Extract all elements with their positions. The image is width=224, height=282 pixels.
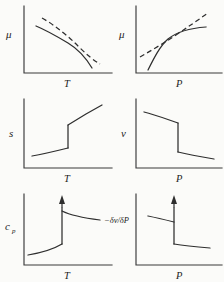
panel-cp-vs-T: c p T −δv/δP xyxy=(5,194,129,281)
xlabel-T-2: T xyxy=(64,173,71,184)
xlabel-P-1: P xyxy=(175,78,183,89)
panel-v-vs-P: v P xyxy=(121,99,222,184)
curve-dvdp-low-branch xyxy=(148,216,174,222)
axes-mu-vs-P xyxy=(136,6,222,73)
ylabel-s: s xyxy=(9,127,13,139)
ylabel-mu-1: μ xyxy=(5,28,12,40)
xlabel-P-3: P xyxy=(175,270,183,281)
thermodynamic-phase-transition-figure: μ T μ P s T v P c p T −δv/δP xyxy=(0,0,224,282)
ylabel-c-subscript-p: p xyxy=(11,227,16,235)
axes-dvdp-vs-P xyxy=(136,194,222,265)
cp-divergence-arrow-head xyxy=(59,195,65,204)
xlabel-P-2: P xyxy=(175,173,183,184)
annotation-dvdp: −δv/δP xyxy=(104,215,129,225)
curve-cp-high-branch xyxy=(62,211,100,220)
ylabel-mu-2: μ xyxy=(118,28,125,40)
curve-s-high-branch xyxy=(68,105,102,125)
curve-s-low-branch xyxy=(32,148,68,156)
xlabel-T-3: T xyxy=(64,270,71,281)
figure-canvas: μ T μ P s T v P c p T −δv/δP xyxy=(0,0,224,282)
axes-cp-vs-T xyxy=(24,194,112,265)
curve-v-low-branch xyxy=(144,112,178,123)
curve-cp-low-branch xyxy=(28,244,62,255)
dvdp-divergence-arrow-head xyxy=(171,195,177,204)
curve-v-high-branch xyxy=(178,152,214,159)
curve-mu-T-dashed xyxy=(42,18,100,64)
ylabel-c: c xyxy=(5,220,10,232)
curve-dvdp-high-branch xyxy=(174,244,210,248)
xlabel-T-1: T xyxy=(64,78,71,89)
panel-s-vs-T: s T xyxy=(9,99,112,184)
panel-mu-vs-P: μ P xyxy=(118,6,222,89)
ylabel-v: v xyxy=(121,127,126,139)
curve-mu-P-solid xyxy=(148,27,206,70)
axes-mu-vs-T xyxy=(24,6,112,73)
curve-mu-T-solid xyxy=(36,26,92,68)
panel-mu-vs-T: μ T xyxy=(5,6,112,89)
panel-dvdp-vs-P: P xyxy=(136,194,222,281)
